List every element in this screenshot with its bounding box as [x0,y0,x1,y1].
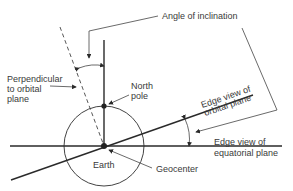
equatorial-plane-label-2: equatorial plane [214,148,278,158]
north-pole-label-1: North [131,81,153,91]
geocenter-leader-line [109,150,152,168]
north-pole-label-2: pole [131,91,148,101]
north-pole-leader-line [109,95,129,104]
perpendicular-label-2: to orbital [7,84,42,94]
north-pole-dot [101,103,106,108]
earth-label: Earth [93,160,115,170]
equatorial-plane-label-1: Edge view of [214,137,266,147]
right-angle-arc [185,119,190,146]
perpendicular-leader-line [50,86,76,87]
geocenter-dot [101,143,107,149]
angle-leader-line [89,16,158,58]
angle-of-inclination-label: Angle of inclination [162,11,238,21]
perpendicular-label-3: plane [7,94,29,104]
top-angle-arc [79,65,104,68]
geocenter-label: Geocenter [156,164,198,174]
perpendicular-label-1: Perpendicular [7,74,63,84]
